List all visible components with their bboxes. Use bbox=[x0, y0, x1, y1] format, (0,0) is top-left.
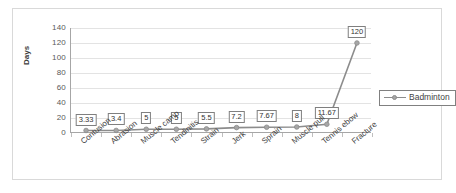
data-label: 5 bbox=[141, 112, 151, 124]
x-axis-tick bbox=[372, 133, 373, 137]
data-label: 3.33 bbox=[76, 114, 97, 126]
data-label: 7.67 bbox=[256, 110, 277, 122]
x-axis-tick bbox=[191, 133, 192, 137]
plot-area: 3.333.4555.57.27.67811.67120 bbox=[70, 28, 371, 133]
y-axis-tick-label: 20 bbox=[26, 114, 66, 122]
y-axis-tick-labels: 140120100806040200 bbox=[21, 28, 66, 133]
x-axis-tick bbox=[252, 133, 253, 137]
data-label: 7.2 bbox=[228, 111, 244, 123]
x-axis-tick bbox=[312, 133, 313, 137]
y-axis-tick-label: 40 bbox=[26, 99, 66, 107]
x-axis-tick bbox=[222, 133, 223, 137]
x-axis-tick bbox=[342, 133, 343, 137]
legend-item-label: Badminton bbox=[409, 93, 450, 102]
data-label: 5.5 bbox=[198, 112, 214, 124]
y-axis-tick-label: 0 bbox=[26, 129, 66, 137]
x-axis-tick bbox=[71, 133, 72, 137]
y-axis-tick-label: 80 bbox=[26, 69, 66, 77]
data-point-marker[interactable] bbox=[234, 125, 239, 130]
data-label: 8 bbox=[292, 110, 302, 122]
chart-legend[interactable]: Badminton bbox=[379, 90, 456, 106]
data-point-marker[interactable] bbox=[325, 122, 330, 127]
x-axis-tick bbox=[101, 133, 102, 137]
chart-container: Days 140120100806040200 3.333.4555.57.27… bbox=[0, 0, 456, 193]
y-axis-tick-label: 60 bbox=[26, 84, 66, 92]
x-axis-tick bbox=[131, 133, 132, 137]
y-axis-tick-label: 140 bbox=[26, 24, 66, 32]
y-axis-tick-label: 120 bbox=[26, 39, 66, 47]
x-axis-tick bbox=[161, 133, 162, 137]
y-axis-tick-label: 100 bbox=[26, 54, 66, 62]
data-point-marker[interactable] bbox=[294, 125, 299, 130]
legend-line-marker-icon bbox=[384, 93, 406, 102]
data-point-marker[interactable] bbox=[355, 41, 360, 46]
x-axis-tick bbox=[282, 133, 283, 137]
data-label: 120 bbox=[348, 26, 367, 38]
data-point-marker[interactable] bbox=[264, 125, 269, 130]
chart-frame: Days 140120100806040200 3.333.4555.57.27… bbox=[12, 8, 442, 180]
